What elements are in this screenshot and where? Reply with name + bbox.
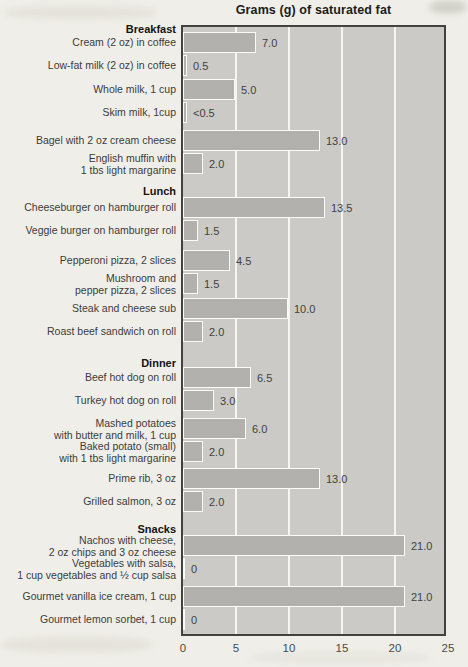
- food-item-label: Baked potato (small)with 1 tbs light mar…: [59, 441, 176, 464]
- food-item-label-line: Prime rib, 3 oz: [108, 473, 176, 485]
- food-item-label-line: Whole milk, 1 cup: [93, 84, 176, 96]
- bar: [183, 197, 325, 218]
- food-item-label: Cheeseburger on hamburger roll: [24, 202, 176, 214]
- food-item-label-line: 1 tbs light margarine: [81, 164, 176, 176]
- category-label: Lunch: [143, 185, 176, 197]
- food-item-label: Bagel with 2 oz cream cheese: [36, 135, 176, 147]
- x-axis-tick-label: 5: [233, 642, 239, 654]
- food-item-label-line: Cheeseburger on hamburger roll: [24, 202, 176, 214]
- food-item-label-line: Beef hot dog on roll: [85, 372, 176, 384]
- food-item-label: Steak and cheese sub: [72, 303, 176, 315]
- bar: [183, 535, 405, 556]
- bar: [183, 298, 288, 319]
- food-item-label: Gourmet lemon sorbet, 1 cup: [40, 614, 176, 626]
- bar: [183, 32, 256, 53]
- food-item-label: Vegetables with salsa,1 cup vegetables a…: [17, 558, 176, 581]
- food-item-label: Gourmet vanilla ice cream, 1 cup: [23, 591, 176, 603]
- food-item-label: Prime rib, 3 oz: [108, 473, 176, 485]
- bar: [183, 390, 214, 411]
- x-axis-tick-label: 0: [180, 642, 186, 654]
- bar: [183, 321, 203, 342]
- page-bleed-artifact: [6, 6, 156, 19]
- food-item-label: Turkey hot dog on roll: [75, 395, 176, 407]
- food-item-label: Pepperoni pizza, 2 slices: [60, 255, 176, 267]
- bar-value-label: 13.0: [326, 135, 347, 147]
- bar-value-label: 0: [191, 614, 197, 626]
- chart-title: Grams (g) of saturated fat: [181, 3, 446, 17]
- food-item-label: Beef hot dog on roll: [85, 372, 176, 384]
- food-item-label-line: with 1 tbs light margarine: [59, 452, 176, 464]
- food-item-label-line: Vegetables with salsa,: [17, 558, 176, 570]
- food-item-label: English muffin with1 tbs light margarine: [81, 153, 176, 176]
- x-axis-tick-label: 20: [389, 642, 402, 654]
- x-axis-tick-label: 10: [283, 642, 296, 654]
- bar: [183, 418, 246, 439]
- food-item-label-line: Gourmet lemon sorbet, 1 cup: [40, 614, 176, 626]
- bar-value-label: 7.0: [262, 37, 277, 49]
- food-item-label-line: Grilled salmon, 3 oz: [83, 496, 176, 508]
- food-item-label-line: Nachos with cheese,: [49, 535, 176, 547]
- bar-value-label: <0.5: [193, 107, 215, 119]
- bar: [183, 250, 230, 271]
- bar-value-label: 2.0: [209, 158, 224, 170]
- bar: [183, 609, 185, 630]
- bar-value-label: 21.0: [411, 591, 432, 603]
- bar: [183, 586, 405, 607]
- x-axis-tick-label: 25: [442, 642, 455, 654]
- food-item-label: Whole milk, 1 cup: [93, 84, 176, 96]
- bar-value-label: 13.0: [326, 473, 347, 485]
- bar: [183, 102, 187, 123]
- bar-value-label: 5.0: [241, 84, 256, 96]
- bar: [183, 491, 203, 512]
- food-item-label: Roast beef sandwich on roll: [47, 326, 176, 338]
- x-axis-tick-label: 15: [336, 642, 349, 654]
- bar: [183, 558, 185, 579]
- bar-value-label: 10.0: [294, 303, 315, 315]
- food-item-label-line: Bagel with 2 oz cream cheese: [36, 135, 176, 147]
- food-item-label-line: English muffin with: [81, 153, 176, 165]
- bar-value-label: 3.0: [220, 395, 235, 407]
- bar-value-label: 6.0: [252, 423, 267, 435]
- food-item-label-line: Cream (2 oz) in coffee: [72, 37, 176, 49]
- bar: [183, 468, 320, 489]
- food-item-label-line: 1 cup vegetables and ½ cup salsa: [17, 569, 176, 581]
- food-item-label-line: Skim milk, 1cup: [102, 107, 176, 119]
- category-label: Breakfast: [126, 23, 176, 35]
- bar-value-label: 2.0: [209, 496, 224, 508]
- bar: [183, 130, 320, 151]
- food-item-label-line: Veggie burger on hamburger roll: [25, 225, 176, 237]
- food-item-label-line: Pepperoni pizza, 2 slices: [60, 255, 176, 267]
- bar: [183, 273, 198, 294]
- bar: [183, 55, 187, 76]
- food-item-label-line: Mashed potatoes: [54, 418, 176, 430]
- bar-value-label: 0: [191, 563, 197, 575]
- saturated-fat-bar-chart: Grams (g) of saturated fat BreakfastCrea…: [0, 0, 468, 667]
- bar-value-label: 1.5: [204, 225, 219, 237]
- bar-value-label: 2.0: [209, 446, 224, 458]
- bar-value-label: 1.5: [204, 278, 219, 290]
- bar-value-label: 6.5: [257, 372, 272, 384]
- food-item-label-line: Mushroom and: [75, 273, 176, 285]
- bar: [183, 220, 198, 241]
- bar-value-label: 0.5: [193, 60, 208, 72]
- bar-value-label: 13.5: [331, 202, 352, 214]
- bar-value-label: 21.0: [411, 540, 432, 552]
- food-item-label-line: Steak and cheese sub: [72, 303, 176, 315]
- food-item-label-line: Turkey hot dog on roll: [75, 395, 176, 407]
- bar: [183, 153, 203, 174]
- food-item-label-line: Baked potato (small): [59, 441, 176, 453]
- page-bleed-artifact: [2, 637, 152, 652]
- food-item-label: Mushroom andpepper pizza, 2 slices: [75, 273, 176, 296]
- food-item-label: Grilled salmon, 3 oz: [83, 496, 176, 508]
- food-item-label-line: Gourmet vanilla ice cream, 1 cup: [23, 591, 176, 603]
- food-item-label-line: pepper pizza, 2 slices: [75, 284, 176, 296]
- bar-value-label: 4.5: [236, 255, 251, 267]
- food-item-label: Skim milk, 1cup: [102, 107, 176, 119]
- food-item-label: Cream (2 oz) in coffee: [72, 37, 176, 49]
- food-item-label-line: Low-fat milk (2 oz) in coffee: [48, 60, 176, 72]
- food-item-label: Nachos with cheese,2 oz chips and 3 oz c…: [49, 535, 176, 558]
- bar: [183, 79, 235, 100]
- bar-value-label: 2.0: [209, 326, 224, 338]
- food-item-label: Mashed potatoeswith butter and milk, 1 c…: [54, 418, 176, 441]
- food-item-label: Veggie burger on hamburger roll: [25, 225, 176, 237]
